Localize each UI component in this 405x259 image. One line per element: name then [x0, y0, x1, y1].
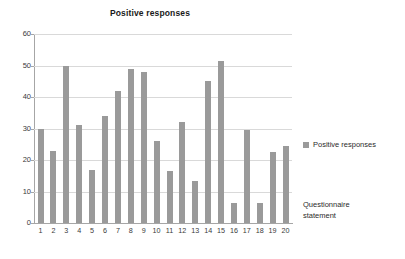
y-axis-tick-label: 20	[5, 156, 31, 164]
legend-swatch-icon	[303, 142, 309, 148]
bar	[218, 61, 224, 223]
bar	[38, 129, 44, 224]
bar	[270, 152, 276, 223]
gridline	[34, 192, 292, 193]
x-axis-tick-label: 2	[46, 227, 60, 234]
x-axis-tick-label: 20	[279, 227, 293, 234]
bar	[89, 170, 95, 224]
x-axis-tick-label: 13	[188, 227, 202, 234]
bar	[128, 69, 134, 223]
bar	[102, 116, 108, 223]
y-axis-tick-mark	[31, 223, 34, 224]
gridline	[34, 160, 292, 161]
bar	[141, 72, 147, 223]
bar	[205, 81, 211, 223]
plot-area	[34, 34, 292, 223]
y-axis-tick-label: 30	[5, 125, 31, 133]
x-axis-tick-label: 19	[266, 227, 280, 234]
chart-title: Positive responses	[0, 8, 300, 18]
x-axis-caption-line1: Questionnaire	[303, 200, 399, 211]
gridline	[34, 129, 292, 130]
x-axis-tick-label: 1	[34, 227, 48, 234]
y-axis-tick-label: 10	[5, 188, 31, 196]
legend-label: Positive responses	[313, 140, 376, 149]
x-axis-tick-label: 4	[72, 227, 86, 234]
x-axis-tick-label: 14	[201, 227, 215, 234]
bar	[76, 125, 82, 223]
bar	[115, 91, 121, 223]
bar-chart: Positive responses 0102030405060 1234567…	[0, 0, 405, 259]
x-axis-tick-label: 7	[111, 227, 125, 234]
bar	[179, 122, 185, 223]
x-axis-tick-label: 10	[150, 227, 164, 234]
x-axis-tick-label: 8	[124, 227, 138, 234]
gridline	[34, 34, 292, 35]
bar	[257, 203, 263, 224]
bar	[167, 171, 173, 223]
gridline	[34, 66, 292, 67]
y-axis-tick-label: 40	[5, 93, 31, 101]
x-axis-caption-line2: statement	[303, 211, 399, 222]
legend: Positive responses	[303, 140, 376, 149]
bar	[283, 146, 289, 223]
y-axis-tick-label: 50	[5, 62, 31, 70]
x-axis-caption: Questionnaire statement	[303, 200, 399, 222]
y-axis-tick-label: 0	[5, 219, 31, 227]
x-axis-tick-label: 17	[240, 227, 254, 234]
bar	[192, 181, 198, 224]
x-axis-line	[34, 223, 293, 224]
gridline	[34, 97, 292, 98]
y-axis-tick-label: 60	[5, 30, 31, 38]
bar	[244, 130, 250, 223]
bar	[63, 66, 69, 224]
x-axis-tick-label: 15	[214, 227, 228, 234]
x-axis-tick-label: 6	[98, 227, 112, 234]
bar	[231, 203, 237, 224]
x-axis-tick-label: 3	[59, 227, 73, 234]
bar	[50, 151, 56, 224]
x-axis-tick-label: 9	[137, 227, 151, 234]
x-axis-tick-label: 5	[85, 227, 99, 234]
x-axis-tick-label: 12	[175, 227, 189, 234]
bar	[154, 141, 160, 223]
